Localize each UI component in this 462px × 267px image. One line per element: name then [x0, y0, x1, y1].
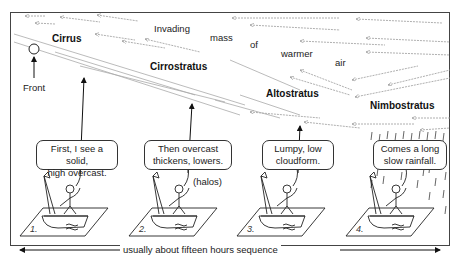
cloud-label-nimbostratus: Nimbostratus	[370, 101, 434, 111]
cloud-label-altostratus: Altostratus	[266, 89, 319, 99]
front-label: Front	[23, 83, 45, 93]
air-flow-streaks	[25, 15, 450, 130]
air-mass-word: air	[335, 58, 346, 68]
speech-line: First, I see a solid,	[40, 143, 114, 167]
panel-number-4: 4.	[356, 224, 364, 234]
cloud-label-cirrostratus: Cirrostratus	[150, 62, 207, 72]
speech-line: Lumpy, low	[266, 143, 330, 155]
speech-line: thickens, lowers.	[148, 155, 228, 167]
speech-line: slow rainfall.	[377, 155, 443, 167]
air-mass-word: of	[250, 40, 258, 50]
speech-line: high overcast.	[40, 167, 114, 179]
speech-line: Then overcast	[148, 143, 228, 155]
speech-line: cloudform.	[266, 155, 330, 167]
air-mass-word: mass	[210, 33, 233, 43]
panel-number-2: 2.	[139, 224, 147, 234]
cloud-label-cirrus: Cirrus	[52, 34, 81, 44]
air-mass-word: Invading	[154, 24, 190, 34]
air-mass-word: warmer	[281, 49, 313, 59]
front-marker-icon	[29, 44, 39, 54]
speech-bubble-1: First, I see a solid, high overcast.	[36, 140, 118, 170]
panel-drawings	[20, 172, 434, 236]
panel-number-3: 3.	[247, 224, 255, 234]
speech-bubble-4: Comes a long slow rainfall.	[373, 140, 447, 170]
speech-tails	[76, 168, 407, 186]
speech-bubble-3: Lumpy, low cloudform.	[262, 140, 334, 170]
speech-bubble-2: Then overcast thickens, lowers.	[144, 140, 232, 170]
halos-note: (halos)	[193, 177, 222, 187]
speech-line: Comes a long	[377, 143, 443, 155]
panel-number-1: 1.	[30, 224, 38, 234]
timeline-label: usually about fifteen hours sequence	[120, 244, 281, 255]
